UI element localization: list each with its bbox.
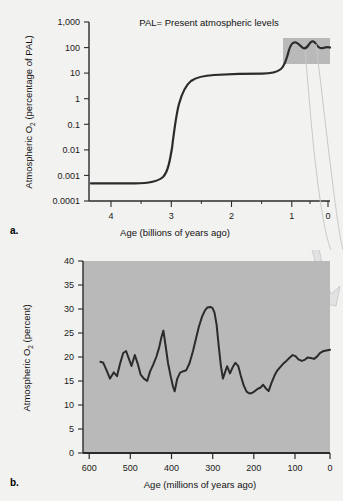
panel-b-xtick-6: 0	[327, 463, 332, 473]
panel-b-ytick-2: 30	[64, 304, 74, 314]
panel-a-precambrian-oxygen: 1,000 100 10 1 0.1 0.01 0.001 0.0001 4 3…	[0, 0, 343, 250]
panel-a-xtick-4: 0	[325, 211, 330, 221]
panel-a-ytick-7: 0.0001	[52, 196, 80, 206]
phanerozoic-highlight-box	[283, 38, 330, 64]
panel-b-x-axis-title: Age (millions of years ago)	[144, 479, 256, 490]
panel-a-x-axis-title: Age (billions of years ago)	[120, 227, 230, 238]
panel-b-xtick-0: 600	[82, 463, 97, 473]
panel-b-ytick-7: 5	[69, 424, 74, 434]
panel-b-y-ticks	[78, 261, 83, 453]
panel-a-ytick-0: 1,000	[57, 17, 80, 27]
panel-b-phanerozoic-oxygen: 40 35 30 25 20 15 10 5 0 600 500 400 300…	[0, 250, 343, 501]
panel-b-xtick-1: 500	[123, 463, 138, 473]
svg-text:Atmospheric O2 (percent): Atmospheric O2 (percent)	[21, 304, 34, 411]
panel-b-xtick-4: 200	[246, 463, 261, 473]
panel-b-plot-background	[83, 261, 330, 453]
panel-a-xtick-2: 2	[229, 211, 234, 221]
pal-annotation: PAL= Present atmospheric levels	[139, 17, 279, 28]
panel-a-xtick-1: 3	[169, 211, 174, 221]
panel-a-svg: 1,000 100 10 1 0.1 0.01 0.001 0.0001 4 3…	[0, 0, 343, 250]
panel-b-label: b.	[10, 477, 19, 488]
panel-a-ytick-5: 0.01	[62, 145, 80, 155]
panel-b-ytick-5: 15	[64, 376, 74, 386]
svg-text:Atmospheric O2 (percentage of: Atmospheric O2 (percentage of PAL)	[23, 35, 36, 188]
panel-a-ytick-4: 0.1	[67, 120, 80, 130]
panel-a-ytick-6: 0.001	[57, 171, 80, 181]
panel-a-ytick-1: 100	[65, 43, 80, 53]
panel-a-x-ticks	[111, 201, 328, 207]
panel-a-ytick-2: 10	[70, 68, 80, 78]
panel-a-xtick-0: 4	[108, 211, 113, 221]
panel-b-ylabel-main: Atmospheric O	[21, 349, 32, 412]
panel-a-y-ticks	[84, 22, 89, 201]
panel-a-xtick-3: 1	[289, 211, 294, 221]
panel-b-xtick-2: 400	[164, 463, 179, 473]
panel-b-svg: 40 35 30 25 20 15 10 5 0 600 500 400 300…	[0, 250, 343, 501]
panel-b-xtick-5: 100	[287, 463, 302, 473]
panel-a-ylabel-tail: (percentage of PAL)	[23, 35, 34, 122]
panel-b-ytick-1: 35	[64, 280, 74, 290]
panel-a-ytick-3: 1	[75, 94, 80, 104]
panel-b-ytick-8: 0	[69, 448, 74, 458]
panel-a-label: a.	[10, 225, 19, 236]
panel-a-ylabel-main: Atmospheric O	[23, 126, 34, 189]
panel-a-y-axis-title: Atmospheric O2 (percentage of PAL)	[23, 35, 36, 188]
panel-b-ytick-0: 40	[64, 256, 74, 266]
panel-b-ylabel-tail: (percent)	[21, 304, 32, 345]
panel-b-ytick-4: 20	[64, 352, 74, 362]
panel-b-ytick-6: 10	[64, 400, 74, 410]
panel-b-xtick-3: 300	[205, 463, 220, 473]
panel-b-y-axis-title: Atmospheric O2 (percent)	[21, 304, 34, 411]
panel-b-ytick-3: 25	[64, 328, 74, 338]
